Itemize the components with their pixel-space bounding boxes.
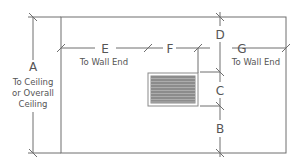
vent-grille xyxy=(148,73,198,106)
dimension-a-note-line3: Ceiling xyxy=(18,99,47,109)
dimension-a-note-line2: or Overall xyxy=(12,88,54,98)
vent-placement-diagram: A To Ceiling or Overall Ceiling E To Wal… xyxy=(0,0,305,168)
dimension-e-label: E xyxy=(101,42,109,56)
dimension-g-note: To Wall End xyxy=(231,57,280,67)
dimension-d-label: D xyxy=(215,28,224,42)
dimension-a-label: A xyxy=(29,60,38,74)
dimension-f-label: F xyxy=(167,42,174,56)
dimension-e-note: To Wall End xyxy=(79,57,128,67)
dimension-a-note-line1: To Ceiling xyxy=(12,77,54,87)
dimension-c-label: C xyxy=(216,84,224,98)
dimension-b-label: B xyxy=(216,122,224,136)
dimension-g-label: G xyxy=(237,42,246,56)
